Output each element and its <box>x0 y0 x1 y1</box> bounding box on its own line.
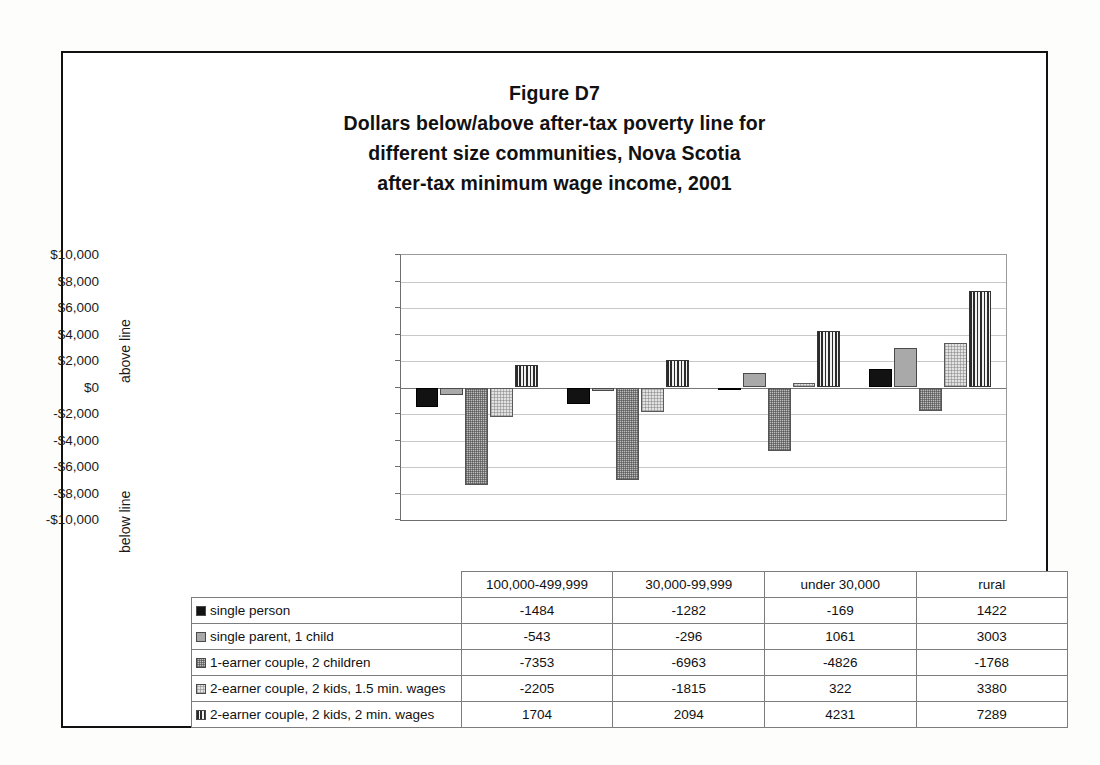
table-corner-cell <box>192 572 462 598</box>
below-line-axis-label: below line <box>117 491 133 553</box>
table-value-cell: 322 <box>765 676 917 702</box>
table-header-row: 100,000-499,99930,000-99,999under 30,000… <box>192 572 1068 598</box>
bar <box>515 365 538 388</box>
table-column-header: under 30,000 <box>765 572 917 598</box>
bar <box>894 348 917 388</box>
legend-swatch-icon <box>196 710 206 720</box>
table-column-header: 100,000-499,999 <box>461 572 613 598</box>
bar-group <box>401 255 552 520</box>
bar <box>490 388 513 417</box>
table-row: single parent, 1 child-543-29610613003 <box>192 624 1068 650</box>
legend-label: single parent, 1 child <box>210 629 334 644</box>
legend-swatch-icon <box>196 606 206 616</box>
y-axis-tick-label: $6,000 <box>0 300 99 315</box>
table-value-cell: -296 <box>613 624 765 650</box>
bar <box>416 388 439 408</box>
bar <box>768 388 791 452</box>
legend-label: 2-earner couple, 2 kids, 1.5 min. wages <box>210 681 446 696</box>
bar <box>641 388 664 412</box>
table-column-header: rural <box>916 572 1067 598</box>
table-row: 2-earner couple, 2 kids, 1.5 min. wages-… <box>192 676 1068 702</box>
table-value-cell: 1422 <box>916 598 1067 624</box>
title-line-2: Dollars below/above after-tax poverty li… <box>63 108 1046 138</box>
y-axis-tick-label: $4,000 <box>0 326 99 341</box>
table-value-cell: -543 <box>461 624 613 650</box>
bar <box>817 331 840 387</box>
table-value-cell: 4231 <box>765 702 917 728</box>
above-line-axis-label: above line <box>117 319 133 383</box>
bar <box>944 343 967 388</box>
table-row: single person-1484-1282-1691422 <box>192 598 1068 624</box>
data-table: 100,000-499,99930,000-99,999under 30,000… <box>191 571 1068 728</box>
table-column-header: 30,000-99,999 <box>613 572 765 598</box>
y-axis-tick-label: -$8,000 <box>0 485 99 500</box>
figure-page-frame: Figure D7 Dollars below/above after-tax … <box>61 51 1048 728</box>
y-axis-tick-label: $10,000 <box>0 247 99 262</box>
table-body: single person-1484-1282-1691422single pa… <box>192 598 1068 728</box>
table-value-cell: -7353 <box>461 650 613 676</box>
table-value-cell: -2205 <box>461 676 613 702</box>
bar-group <box>552 255 703 520</box>
legend-swatch-icon <box>196 684 206 694</box>
bar-group <box>704 255 855 520</box>
bar <box>743 373 766 387</box>
legend-cell: 2-earner couple, 2 kids, 1.5 min. wages <box>192 676 462 702</box>
y-axis-tick-label: $8,000 <box>0 273 99 288</box>
table-value-cell: 3380 <box>916 676 1067 702</box>
table-value-cell: -4826 <box>765 650 917 676</box>
y-axis-tick-label: -$2,000 <box>0 406 99 421</box>
bar <box>919 388 942 411</box>
legend-cell: single person <box>192 598 462 624</box>
y-axis-tick-label: -$10,000 <box>0 512 99 527</box>
table-value-cell: 7289 <box>916 702 1067 728</box>
legend-label: single person <box>210 603 290 618</box>
table-value-cell: -1768 <box>916 650 1067 676</box>
bar <box>969 291 992 388</box>
legend-swatch-icon <box>196 658 206 668</box>
bar <box>592 388 615 392</box>
bar <box>616 388 639 480</box>
bar <box>666 360 689 388</box>
table-value-cell: -6963 <box>613 650 765 676</box>
y-axis-tick-label: -$4,000 <box>0 432 99 447</box>
table-value-cell: 2094 <box>613 702 765 728</box>
legend-label: 2-earner couple, 2 kids, 2 min. wages <box>210 707 434 722</box>
bar <box>718 388 741 391</box>
bar <box>869 369 892 388</box>
legend-cell: single parent, 1 child <box>192 624 462 650</box>
bar <box>793 383 816 387</box>
table-value-cell: 1061 <box>765 624 917 650</box>
table-value-cell: 1704 <box>461 702 613 728</box>
title-line-1: Figure D7 <box>63 78 1046 108</box>
legend-swatch-icon <box>196 632 206 642</box>
table-value-cell: -169 <box>765 598 917 624</box>
y-axis-tick-label: -$6,000 <box>0 459 99 474</box>
figure-title: Figure D7 Dollars below/above after-tax … <box>63 78 1046 198</box>
bar <box>440 388 463 395</box>
legend-cell: 1-earner couple, 2 children <box>192 650 462 676</box>
y-axis-tick-label: $2,000 <box>0 353 99 368</box>
legend-cell: 2-earner couple, 2 kids, 2 min. wages <box>192 702 462 728</box>
table-row: 2-earner couple, 2 kids, 2 min. wages170… <box>192 702 1068 728</box>
chart-plot-area <box>400 254 1007 521</box>
table-row: 1-earner couple, 2 children-7353-6963-48… <box>192 650 1068 676</box>
title-line-3: different size communities, Nova Scotia <box>63 138 1046 168</box>
y-axis-tick-label: $0 <box>0 379 99 394</box>
table-value-cell: -1282 <box>613 598 765 624</box>
bar <box>465 388 488 485</box>
table-value-cell: -1815 <box>613 676 765 702</box>
title-line-4: after-tax minimum wage income, 2001 <box>63 168 1046 198</box>
legend-label: 1-earner couple, 2 children <box>210 655 371 670</box>
bar-group <box>855 255 1006 520</box>
table-value-cell: -1484 <box>461 598 613 624</box>
bar <box>567 388 590 405</box>
table-value-cell: 3003 <box>916 624 1067 650</box>
